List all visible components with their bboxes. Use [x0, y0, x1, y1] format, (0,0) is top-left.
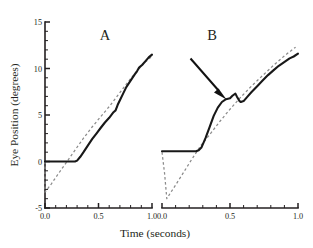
- y-tick-label-10: 10: [34, 65, 42, 74]
- panel-b-x-tick-label-05: 0.5: [225, 212, 235, 221]
- panel-a-target-trace: [45, 56, 152, 192]
- y-tick-label-0: 0: [38, 158, 42, 167]
- eye-position-chart: 15 10 5 0 -5 0.0 0.5 1.0 A: [0, 0, 313, 248]
- panel-a-x-tick-label-0: 0.0: [40, 212, 50, 221]
- panel-a-label: A: [100, 27, 111, 43]
- panel-b: 0.0 0.5 1.0 B: [157, 27, 303, 221]
- y-axis-title: Eye Position (degrees): [8, 63, 21, 166]
- x-axis-title: Time (seconds): [120, 227, 190, 240]
- panel-a-x-tick-label-05: 0.5: [93, 212, 103, 221]
- annotation-arrow-shaft: [191, 59, 220, 92]
- panel-b-x-tick-label-0: 0.0: [157, 212, 167, 221]
- panel-b-eye-trace: [162, 54, 298, 152]
- panel-a-eye-trace: [45, 55, 152, 162]
- panel-a-x-tick-label-1: 1.0: [147, 212, 157, 221]
- panel-b-x-tick-label-1: 1.0: [293, 212, 303, 221]
- annotation-arrow-head: [214, 89, 227, 100]
- panel-b-label: B: [207, 27, 217, 43]
- figure-container: 15 10 5 0 -5 0.0 0.5 1.0 A: [0, 0, 313, 248]
- y-tick-label-15: 15: [34, 18, 42, 27]
- y-tick-label-5: 5: [38, 111, 42, 120]
- panel-a: 15 10 5 0 -5 0.0 0.5 1.0 A: [34, 18, 157, 221]
